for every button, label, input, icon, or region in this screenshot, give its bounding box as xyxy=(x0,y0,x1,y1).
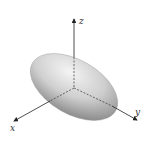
ellipsoid-diagram: z x y xyxy=(0,0,153,146)
x-axis xyxy=(14,101,50,121)
x-axis-label: x xyxy=(10,123,15,133)
y-axis xyxy=(112,106,137,120)
y-axis-label: y xyxy=(134,107,141,117)
z-axis-label: z xyxy=(78,16,84,26)
